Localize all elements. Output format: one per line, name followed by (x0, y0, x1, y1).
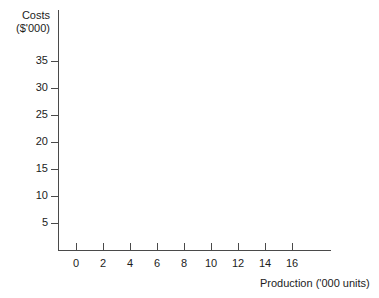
x-axis-tick (76, 243, 77, 250)
y-axis-tick (51, 115, 58, 116)
plot-area (59, 10, 331, 250)
x-axis-tick (103, 243, 104, 250)
y-axis-title-line-2: ($'000) (0, 22, 50, 35)
y-axis-title-line-1: Costs (0, 9, 50, 22)
x-axis-tick (265, 243, 266, 250)
x-axis-tick-label: 6 (154, 258, 160, 269)
y-axis-tick (51, 196, 58, 197)
y-axis-tick-label: 30 (36, 82, 48, 93)
y-axis-tick (51, 61, 58, 62)
x-axis-tick-label: 0 (73, 258, 79, 269)
x-axis-title: Production ('000 units) (260, 277, 370, 289)
y-axis-tick-label: 5 (42, 217, 48, 228)
x-axis-tick-label: 12 (232, 258, 244, 269)
x-axis-tick (238, 243, 239, 250)
x-axis-tick-label: 14 (259, 258, 271, 269)
y-axis-tick-label: 20 (36, 136, 48, 147)
x-axis-tick (292, 243, 293, 250)
x-axis-tick-label: 10 (205, 258, 217, 269)
x-axis-line (58, 250, 331, 251)
x-axis-tick-label: 16 (286, 258, 298, 269)
x-axis-tick-label: 4 (127, 258, 133, 269)
y-axis-tick (51, 142, 58, 143)
y-axis-tick-label: 25 (36, 109, 48, 120)
x-axis-tick (130, 243, 131, 250)
y-axis-tick-label: 10 (36, 190, 48, 201)
chart-canvas: Costs ($'000) 5101520253035 024681012141… (0, 0, 379, 298)
y-axis-tick (51, 169, 58, 170)
x-axis-tick (184, 243, 185, 250)
x-axis-tick (157, 243, 158, 250)
y-axis-title: Costs ($'000) (0, 9, 50, 35)
y-axis-tick (51, 88, 58, 89)
x-axis-tick (211, 243, 212, 250)
x-axis-tick-label: 8 (181, 258, 187, 269)
y-axis-tick (51, 223, 58, 224)
y-axis-tick-label: 15 (36, 163, 48, 174)
y-axis-tick-label: 35 (36, 55, 48, 66)
x-axis-tick-label: 2 (100, 258, 106, 269)
